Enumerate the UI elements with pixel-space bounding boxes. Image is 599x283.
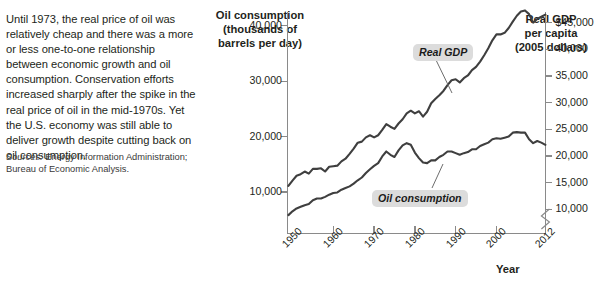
series-line-real-gdp	[288, 10, 545, 186]
right-axis-tick	[545, 22, 552, 23]
left-axis-tick	[281, 81, 288, 82]
left-axis-tick-label: 30,000	[222, 74, 282, 86]
right-axis-tick	[545, 182, 552, 183]
left-axis-tick	[281, 25, 288, 26]
leader-line-real-gdp	[436, 60, 452, 93]
right-axis-tick	[545, 49, 552, 50]
explanatory-text: Until 1973, the real price of oil was re…	[6, 12, 196, 163]
x-axis-title: Year	[496, 263, 520, 275]
right-axis-tick	[545, 209, 552, 210]
right-axis-tick-label: 40,000	[555, 42, 587, 54]
left-axis-tick-label: 20,000	[222, 130, 282, 142]
right-axis-tick-label: 30,000	[555, 96, 587, 108]
right-axis-tick	[545, 155, 552, 156]
right-axis-tick	[545, 102, 552, 103]
right-axis-tick	[545, 129, 552, 130]
right-axis-tick-label: $45,000	[555, 16, 593, 28]
right-axis-tick-label: 20,000	[555, 149, 587, 161]
annotation-oil-consumption: Oil consumption	[372, 190, 468, 207]
dual-axis-line-chart: Oil consumption (thousands of barrels pe…	[200, 0, 599, 283]
left-axis-tick-label: 40,000	[222, 19, 282, 31]
right-axis-tick-label: 15,000	[555, 176, 587, 188]
right-axis-tick-label: 35,000	[555, 69, 587, 81]
right-axis-tick-label: 25,000	[555, 122, 587, 134]
leader-line-oil-consumption	[432, 164, 443, 188]
annotation-real-gdp: Real GDP	[413, 44, 473, 61]
figure-root: Until 1973, the real price of oil was re…	[0, 0, 599, 283]
sources-label: Sources:	[6, 152, 43, 162]
left-axis-tick	[281, 191, 288, 192]
sources-note: Sources: Energy Information Administrati…	[6, 152, 206, 175]
right-axis-tick-label: 10,000	[555, 202, 587, 214]
right-axis-tick	[545, 75, 552, 76]
left-axis-tick-label: 10,000	[222, 185, 282, 197]
left-axis-tick	[281, 136, 288, 137]
